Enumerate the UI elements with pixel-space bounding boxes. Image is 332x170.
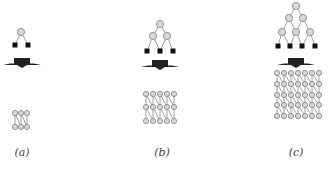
grid-node (302, 81, 307, 86)
grid-node (309, 92, 314, 97)
tree-node (17, 28, 24, 35)
grid-node (143, 104, 148, 109)
grid-node (18, 124, 23, 129)
arrow-tip-icon (155, 67, 165, 70)
grid-node (24, 110, 29, 115)
grid-node (143, 91, 148, 96)
grid-node (288, 70, 293, 75)
grid-node (12, 110, 17, 115)
tree-node (163, 32, 170, 39)
grid-node (274, 81, 279, 86)
leaf-square (276, 44, 281, 49)
arrow-icon (14, 58, 30, 64)
grid-node (171, 91, 176, 96)
arrow-tip-icon (291, 65, 301, 68)
grid-node (295, 70, 300, 75)
grid-node (164, 104, 169, 109)
tree-node (306, 28, 313, 35)
grid-node (157, 91, 162, 96)
grid-node (288, 92, 293, 97)
leaf-square (300, 44, 305, 49)
arrow-base-icon (277, 64, 315, 66)
grid-node (302, 102, 307, 107)
grid-node (288, 81, 293, 86)
panel-label-c: (c) (289, 146, 304, 159)
grid-node (309, 102, 314, 107)
grid-node (302, 113, 307, 118)
grid-node (157, 104, 162, 109)
grid-node (288, 102, 293, 107)
grid-node (150, 91, 155, 96)
grid-node (281, 113, 286, 118)
tree-node (292, 2, 299, 9)
grid-node (295, 113, 300, 118)
grid-node (295, 92, 300, 97)
leaf-square (145, 49, 150, 54)
grid-node (295, 102, 300, 107)
tree-node (299, 14, 306, 21)
leaf-square (171, 49, 176, 54)
grid-node (288, 113, 293, 118)
grid-node (302, 70, 307, 75)
grid-node (274, 102, 279, 107)
leaf-square (26, 43, 31, 48)
arrow-icon (152, 60, 168, 66)
tree-node (285, 14, 292, 21)
grid-node (164, 91, 169, 96)
grid-node (316, 113, 321, 118)
grid-node (281, 81, 286, 86)
grid-node (12, 124, 17, 129)
panel-label-a: (a) (14, 146, 29, 159)
arrow-base-icon (3, 64, 41, 66)
grid-node (164, 118, 169, 123)
leaf-square (158, 49, 163, 54)
grid-node (309, 113, 314, 118)
grid-node (316, 102, 321, 107)
grid-node (316, 70, 321, 75)
tree-node (292, 28, 299, 35)
grid-node (309, 70, 314, 75)
network-diagram-figure (0, 0, 332, 170)
grid-node (150, 118, 155, 123)
grid-node (302, 92, 307, 97)
arrow-tip-icon (17, 65, 27, 68)
grid-node (24, 124, 29, 129)
leaf-square (13, 43, 18, 48)
grid-node (274, 92, 279, 97)
grid-node (18, 110, 23, 115)
grid-node (281, 92, 286, 97)
tree-node (278, 28, 285, 35)
grid-node (274, 70, 279, 75)
grid-node (143, 118, 148, 123)
tree-node (149, 32, 156, 39)
arrow-icon (288, 58, 304, 64)
grid-node (171, 118, 176, 123)
leaf-square (313, 44, 318, 49)
tree-node (156, 20, 163, 27)
grid-node (316, 81, 321, 86)
grid-node (316, 92, 321, 97)
panel-label-b: (b) (154, 146, 170, 159)
grid-node (295, 81, 300, 86)
grid-node (281, 70, 286, 75)
grid-node (171, 104, 176, 109)
leaf-square (288, 44, 293, 49)
grid-node (150, 104, 155, 109)
grid-node (157, 118, 162, 123)
grid-node (309, 81, 314, 86)
grid-node (281, 102, 286, 107)
arrow-base-icon (141, 66, 179, 68)
grid-node (274, 113, 279, 118)
